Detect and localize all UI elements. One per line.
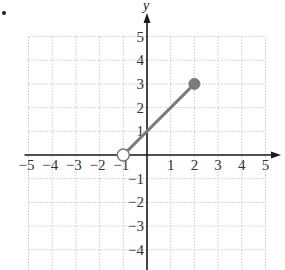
y-tick-label: 2: [137, 100, 145, 116]
x-tick-label: 3: [214, 157, 222, 173]
coordinate-plane: y−5−4−3−2−11234554321−1−2−3−4: [0, 0, 285, 270]
x-tick-label: 1: [167, 157, 175, 173]
line-segment: [123, 84, 194, 155]
x-tick-label: −3: [66, 157, 82, 173]
closed-endpoint: [189, 78, 200, 89]
y-tick-label: −2: [128, 194, 144, 210]
y-tick-label: 3: [137, 76, 145, 92]
x-tick-label: 5: [262, 157, 270, 173]
y-tick-label: 5: [137, 29, 145, 45]
y-tick-label: −4: [128, 242, 144, 258]
y-tick-label: −1: [128, 171, 144, 187]
y-tick-label: 4: [137, 52, 145, 68]
y-axis-arrow-icon: [144, 13, 151, 23]
x-tick-label: −5: [19, 157, 35, 173]
x-tick-label: −4: [42, 157, 58, 173]
y-tick-label: −3: [128, 218, 144, 234]
x-tick-label: −2: [90, 157, 106, 173]
x-tick-label: 2: [191, 157, 199, 173]
y-axis-label: y: [141, 0, 150, 13]
x-tick-label: 4: [238, 157, 246, 173]
open-endpoint: [117, 149, 129, 161]
x-axis-arrow-icon: [271, 152, 281, 159]
